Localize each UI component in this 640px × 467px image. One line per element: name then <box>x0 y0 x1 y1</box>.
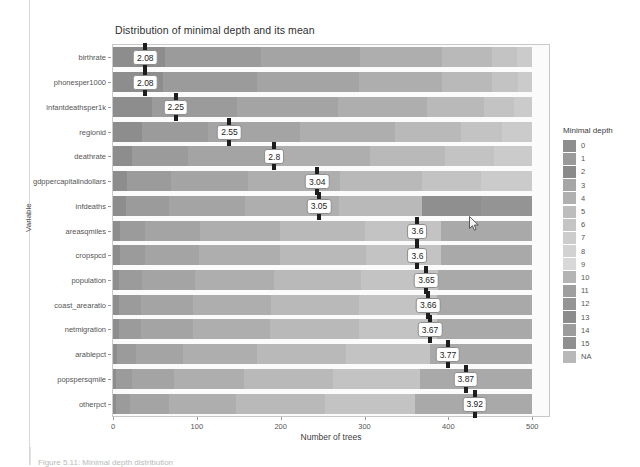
legend-label: 9 <box>581 260 585 269</box>
bar-segment <box>422 196 482 216</box>
stacked-bar[interactable] <box>113 319 549 339</box>
x-axis-tick-mark <box>448 417 449 420</box>
legend-swatch <box>563 153 576 165</box>
bar-segment <box>257 344 346 364</box>
legend-item: 5 <box>563 205 635 218</box>
x-axis-tick-mark <box>281 417 282 420</box>
x-axis-tick-label: 300 <box>358 422 371 431</box>
bar-segment <box>145 221 200 241</box>
bar-segment <box>442 72 492 92</box>
y-axis-tick-mark <box>108 231 111 232</box>
stacked-bar[interactable] <box>113 270 549 290</box>
bar-segment <box>120 221 145 241</box>
legend-label: 2 <box>581 167 585 176</box>
y-axis-tick-mark <box>108 82 111 83</box>
y-axis-tick-label: coast_arearatio <box>54 300 106 309</box>
legend-label: 12 <box>581 299 589 308</box>
legend-swatch <box>563 179 576 191</box>
bar-segment <box>145 245 200 265</box>
x-axis-tick-label: 400 <box>442 422 455 431</box>
bar-segment <box>174 369 244 389</box>
bar-segment <box>271 295 359 315</box>
bar-segment <box>113 221 120 241</box>
stacked-bar[interactable] <box>113 171 549 191</box>
stacked-bar[interactable] <box>113 72 549 92</box>
legend-item: 8 <box>563 245 635 258</box>
bar-segment <box>195 270 274 290</box>
y-axis-tick-mark <box>108 181 111 182</box>
bar-segment <box>481 196 532 216</box>
y-axis-tick-mark <box>108 156 111 157</box>
stacked-bar[interactable] <box>113 47 549 67</box>
legend-item: 3 <box>563 179 635 192</box>
mean-depth-label: 3.05 <box>307 199 332 214</box>
y-axis-tick-label: arablepct <box>75 350 106 359</box>
bar-segment <box>437 295 532 315</box>
bar-segment <box>441 221 532 241</box>
y-axis-tick-label: deathrate <box>74 152 106 161</box>
stacked-bar[interactable] <box>113 344 549 364</box>
y-axis-tick-mark <box>108 354 111 355</box>
y-axis-tick-label: otherpct <box>79 399 106 408</box>
bar-segment <box>257 72 358 92</box>
y-axis-tick-label: regionid <box>79 127 106 136</box>
bar-segment <box>113 196 126 216</box>
stacked-bar[interactable] <box>113 369 549 389</box>
y-axis-tick-mark <box>108 107 111 108</box>
legend-label: 13 <box>581 313 589 322</box>
stacked-bar[interactable] <box>113 245 549 265</box>
bar-segment <box>132 369 174 389</box>
bar-row <box>113 245 549 265</box>
legend-label: 3 <box>581 181 585 190</box>
legend-item: 11 <box>563 284 635 297</box>
x-axis-tick-mark <box>365 417 366 420</box>
y-axis-tick-mark <box>108 280 111 281</box>
y-axis-tick-mark <box>108 255 111 256</box>
legend-label: 0 <box>581 141 585 150</box>
mean-depth-label: 3.04 <box>305 174 330 189</box>
bar-segment <box>502 122 532 142</box>
legend-swatch <box>563 245 576 257</box>
figure-caption: Figure 5.11: Minimal depth distribution <box>38 458 598 467</box>
legend-label: 4 <box>581 194 585 203</box>
mean-depth-label: 3.6 <box>408 224 428 239</box>
bar-row <box>113 47 549 67</box>
bar-segment <box>481 171 532 191</box>
legend-items: 0123456789101112131415NA <box>563 139 635 363</box>
legend-label: 11 <box>581 286 589 295</box>
bar-segment <box>237 97 338 117</box>
y-axis-tick-label: population <box>71 275 106 284</box>
bar-segment <box>514 97 532 117</box>
legend-swatch <box>563 206 576 218</box>
bar-segment <box>274 270 361 290</box>
legend-item: 0 <box>563 139 635 152</box>
bar-row <box>113 344 549 364</box>
stacked-bar[interactable] <box>113 295 549 315</box>
mean-depth-label: 3.92 <box>462 397 487 412</box>
legend-item: 13 <box>563 310 635 323</box>
legend-swatch <box>563 232 576 244</box>
bar-segment <box>461 122 502 142</box>
bar-segment <box>438 270 532 290</box>
y-axis-tick-mark <box>108 57 111 58</box>
x-axis-tick-label: 100 <box>191 422 204 431</box>
bar-segment <box>171 171 248 191</box>
legend-item: NA <box>563 350 635 363</box>
bar-segment <box>127 171 171 191</box>
mean-depth-label: 2.08 <box>133 75 158 90</box>
bar-segment <box>270 319 359 339</box>
mean-depth-label: 2.8 <box>264 149 284 164</box>
y-axis-tick-label: areasqmiles <box>66 226 106 235</box>
bar-segment <box>113 122 142 142</box>
stacked-bar[interactable] <box>113 122 549 142</box>
y-axis-tick-label: popspersqmile <box>57 374 106 383</box>
bar-segment <box>193 319 270 339</box>
bar-segment <box>442 47 491 67</box>
bar-segment <box>200 221 280 241</box>
stacked-bar[interactable] <box>113 146 549 166</box>
x-axis-tick-mark <box>197 417 198 420</box>
legend-swatch <box>563 271 576 283</box>
stacked-bar[interactable] <box>113 221 549 241</box>
legend-swatch <box>563 311 576 323</box>
bar-row <box>113 146 549 166</box>
